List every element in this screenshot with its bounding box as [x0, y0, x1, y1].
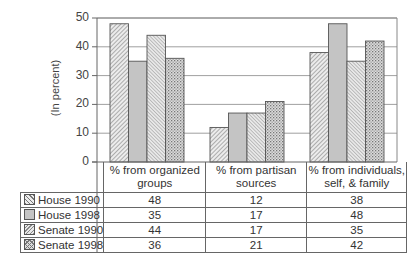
legend-swatch-icon	[24, 194, 35, 205]
legend-entry: Senate 1990	[21, 223, 104, 238]
y-tick-label: 40	[59, 39, 89, 53]
category-label-line: groups	[104, 177, 205, 190]
bar	[329, 24, 348, 162]
data-cell: 48	[104, 193, 206, 208]
table-row: House 1990481238	[21, 193, 407, 208]
legend-swatch-icon	[24, 224, 35, 235]
category-label-line: % from partisan	[206, 164, 306, 177]
data-cell: 21	[206, 238, 307, 253]
table-row: Senate 1998362142	[21, 238, 407, 253]
bar	[210, 127, 229, 162]
data-cell: 48	[307, 208, 407, 223]
bar	[266, 102, 285, 162]
data-cell: 38	[307, 193, 407, 208]
data-cell: 36	[104, 238, 206, 253]
category-header: % from partisansources	[206, 162, 307, 193]
bar	[347, 61, 366, 162]
y-tick-label: 20	[59, 96, 89, 110]
y-axis-label: (In percent)	[49, 53, 61, 123]
data-cell: 42	[307, 238, 407, 253]
legend-label: Senate 1990	[38, 224, 103, 236]
category-header: % from individuals,self, & family	[307, 162, 407, 193]
category-label-line: self, & family	[307, 177, 406, 190]
y-tick-label: 50	[59, 10, 89, 24]
bar	[129, 61, 148, 162]
legend-label: Senate 1998	[38, 239, 103, 251]
data-cell: 12	[206, 193, 307, 208]
bar	[147, 35, 166, 162]
legend-entry: House 1990	[21, 193, 104, 208]
category-label-line: sources	[206, 177, 306, 190]
legend-label: House 1990	[38, 194, 100, 206]
y-tick-label: 30	[59, 68, 89, 82]
bar	[229, 113, 248, 162]
data-table: % from organizedgroups% from partisansou…	[20, 162, 407, 253]
legend-label: House 1998	[38, 209, 100, 221]
data-cell: 44	[104, 223, 206, 238]
category-label-line: % from individuals,	[307, 164, 406, 177]
bar	[110, 24, 129, 162]
category-header: % from organizedgroups	[104, 162, 206, 193]
table-corner	[21, 162, 104, 193]
bar	[166, 58, 185, 162]
data-cell: 17	[206, 223, 307, 238]
table-row: Senate 1990441735	[21, 223, 407, 238]
bar	[366, 41, 385, 162]
bars	[110, 24, 384, 162]
data-cell: 17	[206, 208, 307, 223]
bar	[310, 53, 329, 162]
legend-swatch-icon	[24, 209, 35, 220]
legend-swatch-icon	[24, 239, 35, 250]
legend-entry: House 1998	[21, 208, 104, 223]
category-label-line: % from organized	[104, 164, 205, 177]
legend-entry: Senate 1998	[21, 238, 104, 253]
data-cell: 35	[307, 223, 407, 238]
y-tick-label: 10	[59, 125, 89, 139]
table-row: House 1998351748	[21, 208, 407, 223]
bar	[247, 113, 266, 162]
data-cell: 35	[104, 208, 206, 223]
